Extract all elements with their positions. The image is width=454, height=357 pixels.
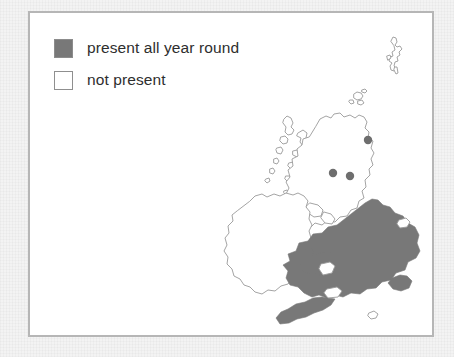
record-point-edinburgh-icon xyxy=(346,172,354,180)
landmass-shetland-islands xyxy=(387,37,402,74)
distribution-map xyxy=(180,21,432,333)
legend-swatch-not-present-icon xyxy=(54,71,73,90)
page-root: present all year round not present xyxy=(0,0,454,357)
legend-swatch-present-icon xyxy=(54,39,73,58)
legend-label-not-present: not present xyxy=(87,71,166,89)
landmass-isle-of-wight xyxy=(368,311,378,319)
record-point-aberdeen-icon xyxy=(364,136,372,144)
figure-panel: present all year round not present xyxy=(28,11,434,337)
map-svg xyxy=(180,21,432,333)
landmass-orkney-islands xyxy=(349,89,367,105)
record-point-glasgow-icon xyxy=(329,169,337,177)
